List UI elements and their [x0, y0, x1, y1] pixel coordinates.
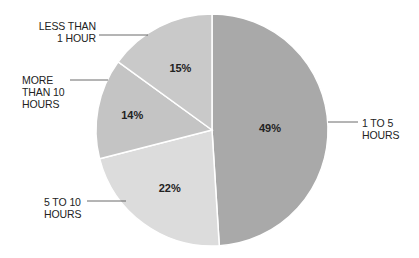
label-line: THAN 10 — [22, 86, 64, 98]
label-line: LESS THAN — [36, 20, 96, 32]
label-less-than-1-hour: LESS THAN 1 HOUR — [36, 20, 96, 44]
label-line: MORE — [22, 74, 64, 86]
label-line: HOURS — [44, 208, 81, 220]
label-line: 1 HOUR — [36, 32, 96, 44]
label-line: 5 TO 10 — [44, 196, 81, 208]
percent-label: 15% — [169, 62, 191, 74]
percent-label: 22% — [159, 182, 181, 194]
label-more-than-10-hours: MORE THAN 10 HOURS — [22, 74, 64, 110]
label-5-to-10-hours: 5 TO 10 HOURS — [44, 196, 81, 220]
label-line: 1 TO 5 — [362, 117, 399, 129]
label-line: HOURS — [362, 129, 399, 141]
percent-label: 49% — [259, 122, 281, 134]
pie-slices — [96, 14, 328, 246]
label-1-to-5-hours: 1 TO 5 HOURS — [362, 117, 399, 141]
label-line: HOURS — [22, 98, 64, 110]
percent-label: 14% — [121, 109, 143, 121]
